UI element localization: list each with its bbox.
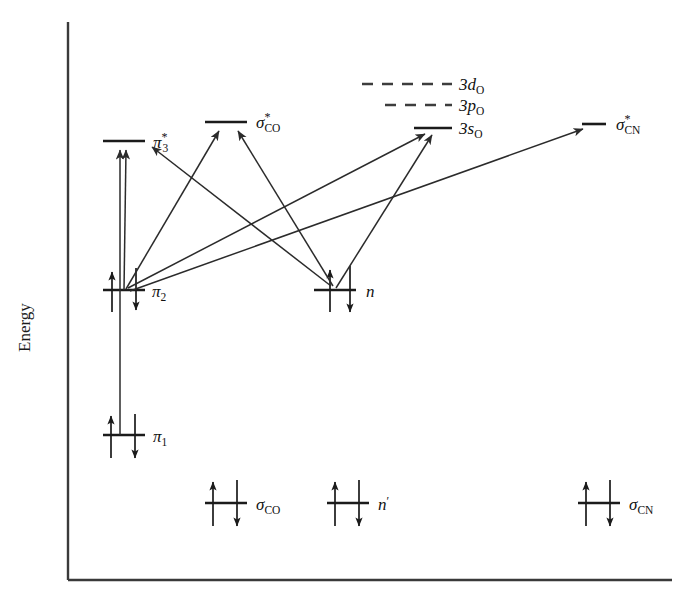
electronic-transitions xyxy=(120,129,583,435)
level-pi-3-star: π*3 xyxy=(103,130,169,154)
level-label-sigma-cn: σCN xyxy=(629,495,654,516)
mo-energy-diagram: Energy 3dO 3pO 3sO xyxy=(0,0,690,608)
level-n-prime: n′ xyxy=(327,480,390,526)
level-label-n: n xyxy=(366,282,375,301)
transition-n-to-sigmacostar xyxy=(238,131,333,286)
level-label-3p-O: 3pO xyxy=(458,96,484,117)
y-axis-label: Energy xyxy=(15,303,34,352)
level-3p-O: 3pO xyxy=(385,96,484,117)
transition-pi2-to-pi3star xyxy=(124,150,126,290)
level-sigma-cn-star: σ*CN xyxy=(582,112,641,136)
axes xyxy=(68,22,672,580)
diagram-canvas: Energy 3dO 3pO 3sO xyxy=(0,0,690,608)
level-label-3s-O: 3sO xyxy=(458,119,482,140)
level-label-pi-1: π1 xyxy=(153,427,168,448)
level-sigma-co: σCO xyxy=(205,480,280,526)
y-axis-label-group: Energy xyxy=(15,303,34,352)
level-label-3d-O: 3dO xyxy=(458,75,484,96)
transition-pi2-to-sigmacnstar xyxy=(130,129,583,291)
level-3d-O: 3dO xyxy=(362,75,484,96)
energy-levels: 3dO 3pO 3sO σ*CO xyxy=(103,75,654,526)
level-sigma-cn: σCN xyxy=(578,480,654,526)
level-3s-O: 3sO xyxy=(414,119,482,140)
level-label-sigma-cn-star: σ*CN xyxy=(616,112,641,136)
level-label-pi-2: π2 xyxy=(152,282,167,303)
level-label-sigma-co: σCO xyxy=(256,495,280,516)
level-label-sigma-co-star: σ*CO xyxy=(256,110,280,134)
level-n: n xyxy=(314,266,375,312)
level-label-n-prime: n′ xyxy=(378,494,390,514)
transition-n-to-pi3star xyxy=(152,147,331,286)
level-pi-1: π1 xyxy=(103,414,168,458)
level-sigma-co-star: σ*CO xyxy=(205,110,280,134)
